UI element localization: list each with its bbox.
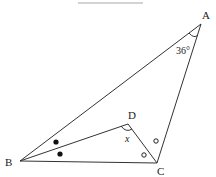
side-AB [20,24,201,161]
segment-BD [20,124,128,161]
bisect-mark-dot-1 [53,139,58,144]
angle-D-variable: x [124,133,130,144]
label-A: A [202,9,210,21]
bisect-mark-circle-1 [154,139,158,143]
bisect-mark-circle-2 [142,153,146,157]
angle-A-value: 36° [176,45,190,56]
bisect-mark-dot-2 [57,151,62,156]
triangle-diagram: A B C D 36° x [0,0,216,177]
angle-arc-A [189,33,198,37]
label-B: B [5,156,12,168]
diagram-canvas: A B C D 36° x [0,0,216,177]
label-C: C [157,165,164,177]
label-D: D [128,109,136,121]
side-BC [20,161,157,163]
